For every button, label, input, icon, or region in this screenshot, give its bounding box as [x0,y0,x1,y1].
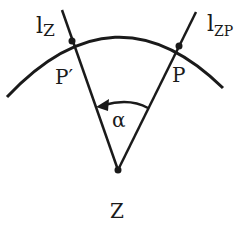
label-alpha: α [112,108,126,132]
point-z-dot [115,167,122,174]
label-lzp: lZP [207,11,233,39]
angle-arc [104,102,148,108]
label-z: Z [110,199,124,223]
line-lzp [118,12,196,170]
diagram-svg: lZ lZP P′ P α Z [0,0,238,240]
label-p-prime: P′ [55,65,73,89]
circle-arc [7,37,223,97]
point-p-dot [176,43,183,50]
line-lz [62,10,118,170]
label-lz: lZ [36,13,55,40]
point-p-prime-dot [69,38,76,45]
diagram-canvas: lZ lZP P′ P α Z [0,0,238,240]
label-p: P [172,63,185,87]
